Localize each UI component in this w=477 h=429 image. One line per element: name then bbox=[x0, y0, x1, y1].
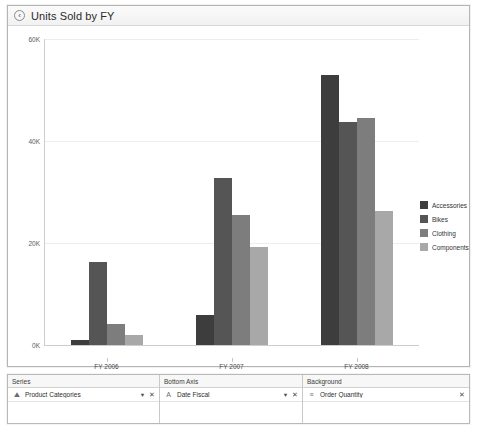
legend-item[interactable]: Components bbox=[420, 241, 472, 253]
chart-surface: 0K20K40K60K FY 2006FY 2007FY 2008 Access… bbox=[8, 27, 469, 366]
panel-field-row[interactable]: ⛰Product Categories▼✕ bbox=[8, 388, 159, 402]
chart-legend: AccessoriesBikesClothingComponents bbox=[420, 199, 472, 255]
legend-swatch-icon bbox=[420, 215, 428, 223]
panel-field-label: Product Categories bbox=[25, 391, 138, 398]
bar-clothing[interactable] bbox=[232, 215, 250, 345]
bar-group bbox=[321, 39, 393, 345]
y-axis-tick-label: 60K bbox=[28, 36, 40, 43]
x-axis-label: FY 2007 bbox=[219, 363, 243, 370]
bar-accessories[interactable] bbox=[196, 315, 214, 345]
y-axis-tick-label: 40K bbox=[28, 138, 40, 145]
y-axis-line bbox=[44, 39, 45, 345]
close-icon[interactable]: ✕ bbox=[457, 391, 466, 399]
bar-group bbox=[71, 39, 143, 345]
bar-components[interactable] bbox=[375, 211, 393, 345]
chart-designer-screen: ‹ Units Sold by FY 0K20K40K60K FY 2006FY… bbox=[0, 0, 477, 429]
chevron-down-icon[interactable]: ▼ bbox=[138, 392, 147, 398]
panel-field-row[interactable]: ADate Fiscal▼✕ bbox=[160, 388, 302, 402]
bar-bikes[interactable] bbox=[339, 122, 357, 345]
bar-components[interactable] bbox=[250, 247, 268, 345]
bar-series-layer bbox=[44, 39, 419, 345]
panel-header: Bottom Axis bbox=[160, 375, 302, 388]
legend-label: Components bbox=[432, 244, 469, 251]
bar-clothing[interactable] bbox=[357, 118, 375, 345]
measure-field-icon: ≡ bbox=[307, 390, 316, 399]
y-axis-tick-label: 20K bbox=[28, 240, 40, 247]
plot-area: 0K20K40K60K FY 2006FY 2007FY 2008 bbox=[44, 39, 419, 345]
legend-label: Accessories bbox=[432, 202, 467, 209]
legend-swatch-icon bbox=[420, 243, 428, 251]
field-panel-bottom-axis[interactable]: Bottom AxisADate Fiscal▼✕ bbox=[160, 375, 303, 423]
date-field-icon: A bbox=[164, 390, 173, 399]
page-title: Units Sold by FY bbox=[31, 10, 115, 22]
panel-field-label: Date Fiscal bbox=[177, 391, 281, 398]
chart-titlebar: ‹ Units Sold by FY bbox=[8, 6, 469, 26]
legend-item[interactable]: Accessories bbox=[420, 199, 472, 211]
bar-components[interactable] bbox=[125, 335, 143, 345]
category-field-icon: ⛰ bbox=[12, 390, 21, 399]
legend-swatch-icon bbox=[420, 229, 428, 237]
chart-window: ‹ Units Sold by FY 0K20K40K60K FY 2006FY… bbox=[7, 5, 470, 367]
x-axis-label: FY 2006 bbox=[94, 363, 118, 370]
back-arrow-icon[interactable]: ‹ bbox=[14, 10, 25, 21]
panel-field-row[interactable]: ≡Order Quantity✕ bbox=[303, 388, 469, 402]
field-panels: Series⛰Product Categories▼✕Bottom AxisAD… bbox=[7, 374, 470, 424]
x-axis-label: FY 2008 bbox=[344, 363, 368, 370]
bar-bikes[interactable] bbox=[214, 178, 232, 345]
chevron-down-icon[interactable]: ▼ bbox=[281, 392, 290, 398]
field-panel-series[interactable]: Series⛰Product Categories▼✕ bbox=[8, 375, 160, 423]
legend-label: Clothing bbox=[432, 230, 456, 237]
x-axis-line bbox=[44, 345, 419, 346]
legend-item[interactable]: Clothing bbox=[420, 227, 472, 239]
bar-accessories[interactable] bbox=[321, 75, 339, 345]
legend-label: Bikes bbox=[432, 216, 448, 223]
panel-header: Background bbox=[303, 375, 469, 388]
legend-swatch-icon bbox=[420, 201, 428, 209]
bar-group bbox=[196, 39, 268, 345]
close-icon[interactable]: ✕ bbox=[290, 391, 299, 399]
bar-clothing[interactable] bbox=[107, 324, 125, 345]
x-axis-tick bbox=[232, 358, 233, 362]
field-panel-background[interactable]: Background≡Order Quantity✕ bbox=[303, 375, 469, 423]
legend-item[interactable]: Bikes bbox=[420, 213, 472, 225]
y-axis-tick-label: 0K bbox=[32, 342, 40, 349]
panel-header: Series bbox=[8, 375, 159, 388]
panel-field-label: Order Quantity bbox=[320, 391, 457, 398]
x-axis-tick bbox=[357, 358, 358, 362]
x-axis-tick bbox=[107, 358, 108, 362]
bar-bikes[interactable] bbox=[89, 262, 107, 345]
close-icon[interactable]: ✕ bbox=[147, 391, 156, 399]
